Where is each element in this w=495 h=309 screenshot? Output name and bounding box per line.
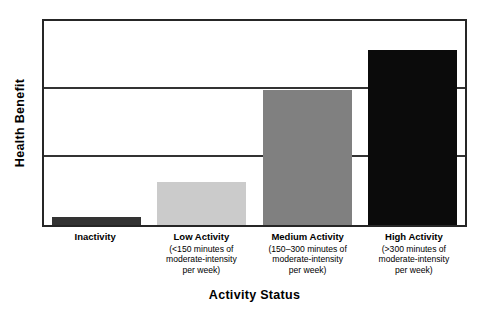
x-tick-label-detail-line: moderate-intensity xyxy=(363,254,465,264)
x-tick-labels: InactivityLow Activity(<150 minutes ofmo… xyxy=(42,231,467,283)
x-tick-label-detail-line: moderate-intensity xyxy=(150,254,252,264)
bar-low-activity xyxy=(157,182,246,225)
x-tick-label-title: High Activity xyxy=(363,231,465,243)
x-tick-label-group: Medium Activity(150–300 minutes ofmodera… xyxy=(255,231,361,283)
y-axis-title-label: Health Benefit xyxy=(13,79,27,167)
x-tick-label-detail: (<150 minutes ofmoderate-intensityper we… xyxy=(150,244,252,275)
bar-inactivity xyxy=(52,217,141,225)
plot-area xyxy=(42,19,467,227)
x-tick-label-detail-line: (>300 minutes of xyxy=(363,244,465,254)
x-tick-label-detail-line: moderate-intensity xyxy=(257,254,359,264)
x-tick-label-title: Inactivity xyxy=(44,231,146,243)
x-tick-label-detail-line: per week) xyxy=(150,265,252,275)
x-tick-label-detail: (150–300 minutes ofmoderate-intensityper… xyxy=(257,244,359,275)
bars-layer xyxy=(44,21,465,225)
x-tick-label-detail-line: (<150 minutes of xyxy=(150,244,252,254)
bar-medium-activity xyxy=(263,90,352,225)
x-tick-label-detail: (>300 minutes ofmoderate-intensityper we… xyxy=(363,244,465,275)
y-axis-title: Health Benefit xyxy=(8,19,32,227)
x-tick-label-detail-line: (150–300 minutes of xyxy=(257,244,359,254)
bar-chart-figure: Health Benefit InactivityLow Activity(<1… xyxy=(0,0,495,309)
x-tick-label-detail-line: per week) xyxy=(257,265,359,275)
x-tick-label-detail-line: per week) xyxy=(363,265,465,275)
x-tick-label-title: Medium Activity xyxy=(257,231,359,243)
x-tick-label-group: Inactivity xyxy=(42,231,148,283)
x-axis-title: Activity Status xyxy=(42,288,467,302)
x-tick-label-title: Low Activity xyxy=(150,231,252,243)
x-tick-label-group: Low Activity(<150 minutes ofmoderate-int… xyxy=(148,231,254,283)
x-tick-label-group: High Activity(>300 minutes ofmoderate-in… xyxy=(361,231,467,283)
bar-high-activity xyxy=(368,50,457,225)
